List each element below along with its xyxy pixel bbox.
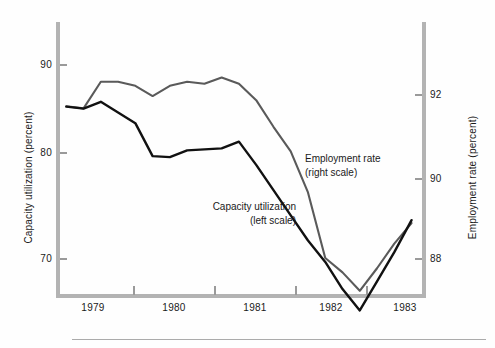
series-annotation-capacity-subtitle: (left scale) xyxy=(178,214,296,228)
plot-area xyxy=(0,0,495,348)
series-line-employment-rate xyxy=(66,78,411,291)
series-annotation-employment-title: Employment rate xyxy=(305,153,381,164)
series-annotation-capacity-utilization: Capacity utilization (left scale) xyxy=(178,200,296,228)
series-annotation-capacity-title: Capacity utilization xyxy=(213,201,296,212)
chart-figure: 90 80 70 92 90 88 1979 1980 1981 1982 19… xyxy=(0,0,495,348)
series-annotation-employment-subtitle: (right scale) xyxy=(305,166,381,180)
footer-rule xyxy=(72,339,486,340)
series-annotation-employment-rate: Employment rate (right scale) xyxy=(305,152,381,180)
